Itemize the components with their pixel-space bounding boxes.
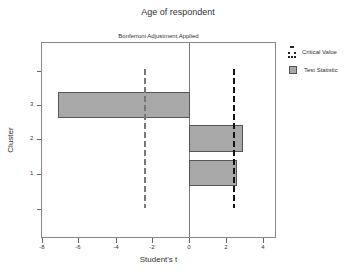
y-tick: [37, 139, 41, 140]
bar-cluster-1: [189, 160, 237, 186]
x-tick: [189, 238, 190, 243]
critical-value-line-positive: [233, 69, 235, 208]
y-tick: [37, 71, 41, 72]
x-tick-label: 4: [256, 244, 270, 250]
x-tick-label: -6: [71, 244, 85, 250]
bar-cluster-3: [58, 92, 190, 118]
y-axis-title: Cluster: [6, 127, 15, 152]
y-tick-label: 3: [30, 101, 33, 107]
legend-label: Test Statistic: [304, 67, 338, 73]
legend-item-critical-value: Critical Value: [288, 43, 338, 61]
x-tick-label: -8: [35, 244, 49, 250]
chart-subtitle: Bonferroni Adjustment Applied: [41, 33, 276, 39]
dashed-line-icon: [288, 46, 296, 58]
legend: Critical Value Test Statistic: [288, 43, 338, 79]
x-tick: [226, 238, 227, 243]
x-tick: [78, 238, 79, 243]
critical-value-line-negative: [144, 69, 146, 208]
x-tick: [42, 238, 43, 243]
y-tick-label: 1: [30, 170, 33, 176]
y-tick: [37, 209, 41, 210]
legend-item-test-statistic: Test Statistic: [288, 61, 338, 79]
x-tick: [152, 238, 153, 243]
x-tick-label: 0: [182, 244, 196, 250]
x-tick: [263, 238, 264, 243]
gray-square-icon: [289, 66, 297, 74]
y-tick: [37, 174, 41, 175]
x-tick: [116, 238, 117, 243]
x-tick-label: 2: [219, 244, 233, 250]
plot-area: [41, 42, 276, 238]
x-tick-label: -2: [145, 244, 159, 250]
y-tick-label: 2: [30, 135, 33, 141]
x-axis-title: Student's t: [41, 255, 276, 264]
y-tick: [37, 105, 41, 106]
x-tick-label: -4: [109, 244, 123, 250]
legend-label: Critical Value: [302, 49, 337, 55]
chart-title: Age of respondent: [0, 7, 356, 17]
